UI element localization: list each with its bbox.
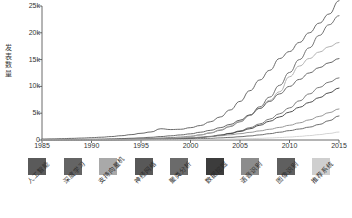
legend-item[interactable]: 图像识别 <box>269 158 303 175</box>
x-axis-tick-label: 2015 <box>324 142 352 149</box>
legend-item[interactable]: 神经网络 <box>127 158 161 175</box>
series-line <box>42 109 339 140</box>
series-line <box>42 42 339 139</box>
legend-item[interactable]: 聚类分析 <box>162 158 196 175</box>
legend-item[interactable]: 语音识别 <box>233 158 267 175</box>
x-axis-tick-label: 1985 <box>27 142 57 149</box>
x-axis-tick-label: 1990 <box>77 142 107 149</box>
x-axis-tick-label: 2005 <box>225 142 255 149</box>
legend-item[interactable]: 人工智能 <box>20 158 54 175</box>
x-axis-tick-label: 2000 <box>176 142 206 149</box>
legend-item[interactable]: 支持向量机 <box>91 158 125 175</box>
legend-item[interactable]: 数据挖掘 <box>198 158 232 175</box>
series-line <box>42 78 339 140</box>
legend-item[interactable]: 深度学习 <box>56 158 90 175</box>
series-line <box>42 16 339 140</box>
series-lines <box>0 0 344 160</box>
x-axis-ticks: 1985199019952000200520102015 <box>0 140 344 154</box>
series-line <box>42 1 339 139</box>
x-axis-tick-label: 1995 <box>126 142 156 149</box>
axis-lines <box>42 6 339 140</box>
legend-item[interactable]: 推荐系统 <box>304 158 338 175</box>
chart-legend: 人工智能深度学习支持向量机神经网络聚类分析数据挖掘语音识别图像识别推荐系统 <box>0 158 344 218</box>
series-line <box>42 88 339 140</box>
x-axis-tick-label: 2010 <box>275 142 305 149</box>
plot-area: 发表数量 05k10k15k20k25k 1985199019952000200… <box>0 0 344 160</box>
